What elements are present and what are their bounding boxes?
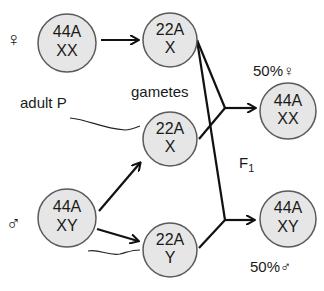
female-offspring-chromosomes: XX <box>277 110 299 127</box>
male-percent-label: 50%♂ <box>250 258 291 275</box>
sperm-x-tail <box>70 118 140 130</box>
female-parent-autosomes: 44A <box>53 23 82 40</box>
male-offspring-chromosomes: XY <box>277 218 299 235</box>
sperm-y-chromosome: Y <box>165 249 176 266</box>
sex-determination-diagram: ♀ 44A XX 22A X gametes adult P 22A X ♂ 4… <box>0 0 324 291</box>
gametes-label: gametes <box>131 83 189 100</box>
arrow-male-to-sperm-x <box>99 163 140 211</box>
arrow-male-to-sperm-y <box>97 229 138 241</box>
male-offspring-autosomes: 44A <box>274 199 303 216</box>
egg-chromosome: X <box>165 39 176 56</box>
female-offspring-autosomes: 44A <box>274 92 303 109</box>
line-sperm-y-to-male-f1 <box>199 220 225 248</box>
sperm-x-autosomes: 22A <box>156 120 185 137</box>
adult-p-label: adult P <box>20 94 67 111</box>
sperm-x-chromosome: X <box>165 138 176 155</box>
line-egg-to-male-f1 <box>197 40 225 220</box>
f1-label: F1 <box>239 154 254 174</box>
female-symbol-icon: ♀ <box>6 28 21 50</box>
male-parent-autosomes: 44A <box>53 198 82 215</box>
sperm-y-tail <box>88 250 140 254</box>
male-symbol-icon: ♂ <box>6 212 21 234</box>
female-percent-label: 50%♀ <box>253 62 294 79</box>
egg-autosomes: 22A <box>156 21 185 38</box>
female-parent-chromosomes: XX <box>56 42 78 59</box>
sperm-y-autosomes: 22A <box>156 231 185 248</box>
male-parent-chromosomes: XY <box>56 217 78 234</box>
